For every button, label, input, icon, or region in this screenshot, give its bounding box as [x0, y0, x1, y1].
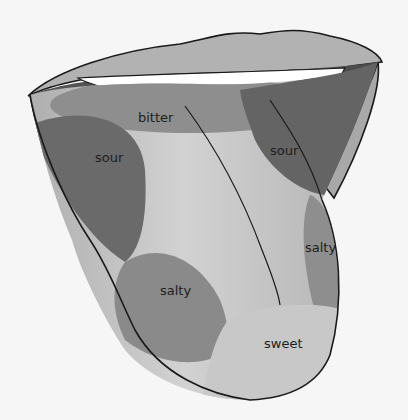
label-salty-right: salty	[305, 240, 336, 255]
label-sweet: sweet	[264, 336, 303, 351]
label-sour-left: sour	[95, 150, 124, 165]
label-salty-left: salty	[160, 283, 191, 298]
label-bitter: bitter	[138, 110, 174, 125]
label-sour-right: sour	[270, 143, 299, 158]
tongue-taste-map-diagram: bitter sour sour salty salty sweet	[0, 0, 408, 420]
